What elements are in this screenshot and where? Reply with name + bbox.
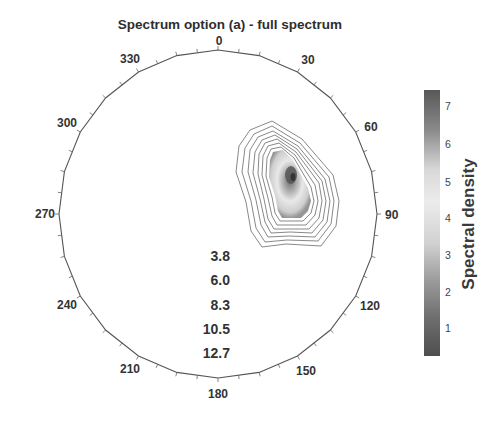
angle-tick-mark <box>314 82 316 85</box>
angle-tick-mark <box>314 343 316 346</box>
radial-label-2: 6.0 <box>211 272 231 288</box>
angle-label-180: 180 <box>208 387 228 401</box>
colorbar: 7 6 5 4 3 2 1 Spectral density <box>424 90 478 356</box>
angle-label-270: 270 <box>35 207 55 221</box>
angle-tick-mark <box>343 313 346 316</box>
angle-label-120: 120 <box>360 299 380 313</box>
angle-tick-mark <box>330 95 333 98</box>
colorbar-tick-7: 7 <box>445 100 451 112</box>
radial-label-3: 8.3 <box>211 297 231 313</box>
angle-tick-mark <box>330 330 333 333</box>
angle-tick-mark <box>298 69 300 73</box>
angle-tick-mark <box>103 330 106 333</box>
radial-label-1: 3.8 <box>211 248 231 264</box>
angle-tick-mark <box>374 192 378 193</box>
angle-label-210: 210 <box>120 362 140 376</box>
angle-tick-mark <box>356 296 360 298</box>
angle-tick-mark <box>356 130 360 132</box>
angle-tick-mark <box>120 82 122 85</box>
angle-tick-mark <box>364 150 368 152</box>
colorbar-ticks: 7 6 5 4 3 2 1 <box>445 100 451 334</box>
angle-tick-mark <box>364 276 368 278</box>
colorbar-tick-4: 4 <box>445 212 451 224</box>
angle-tick-mark <box>197 49 198 53</box>
angle-label-300: 300 <box>57 116 77 130</box>
angle-label-240: 240 <box>57 298 77 312</box>
angle-tick-mark <box>278 364 280 368</box>
angle-tick-mark <box>69 150 73 152</box>
colorbar-tick-3: 3 <box>445 249 451 261</box>
angle-tick-mark <box>176 52 177 56</box>
angle-tick-mark <box>69 276 73 278</box>
angle-tick-mark <box>156 364 158 368</box>
angle-tick-mark <box>61 256 65 257</box>
colorbar-tick-2: 2 <box>445 286 451 298</box>
angle-tick-mark <box>176 372 177 376</box>
angle-tick-mark <box>90 313 93 316</box>
colorbar-tick-6: 6 <box>445 138 451 150</box>
radial-labels: 3.8 6.0 8.3 10.5 12.7 <box>203 248 230 361</box>
angle-tick-mark <box>239 49 240 53</box>
angle-label-330: 330 <box>120 52 140 66</box>
polar-spectrum-chart: Spectrum option (a) - full spectrum 0 30… <box>0 0 502 421</box>
angle-label-90: 90 <box>385 208 399 222</box>
angle-tick-mark <box>259 372 260 376</box>
spectral-peak-fill <box>269 150 311 218</box>
angle-tick-mark <box>343 113 346 116</box>
angle-tick-mark <box>77 130 81 132</box>
angle-tick-mark <box>197 375 198 379</box>
angle-label-0: 0 <box>216 34 223 48</box>
angle-tick-mark <box>137 356 139 360</box>
angle-tick-mark <box>298 356 300 360</box>
colorbar-tick-5: 5 <box>445 176 451 188</box>
angle-label-30: 30 <box>301 53 315 67</box>
angle-tick-mark <box>77 296 81 298</box>
angle-tick-mark <box>372 256 376 257</box>
angle-tick-mark <box>372 171 376 172</box>
angle-tick-mark <box>120 343 122 346</box>
angle-tick-mark <box>90 113 93 116</box>
radial-label-5: 12.7 <box>203 345 230 361</box>
angle-tick-mark <box>58 235 62 236</box>
angle-tick-mark <box>61 171 65 172</box>
chart-title: Spectrum option (a) - full spectrum <box>118 17 342 32</box>
angle-tick-mark <box>156 60 158 64</box>
angle-tick-mark <box>103 95 106 98</box>
angle-tick-mark <box>58 192 62 193</box>
angle-tick-mark <box>278 60 280 64</box>
radial-label-4: 10.5 <box>203 321 230 337</box>
colorbar-gradient <box>424 90 440 356</box>
angle-tick-mark <box>239 375 240 379</box>
spectral-peak-core-inner <box>291 173 296 181</box>
angle-tick-mark <box>374 235 378 236</box>
angle-tick-mark <box>259 52 260 56</box>
angle-label-150: 150 <box>296 364 316 378</box>
colorbar-tick-1: 1 <box>445 322 451 334</box>
angle-tick-mark <box>137 69 139 73</box>
angle-label-60: 60 <box>364 120 378 134</box>
colorbar-title: Spectral density <box>459 158 478 290</box>
